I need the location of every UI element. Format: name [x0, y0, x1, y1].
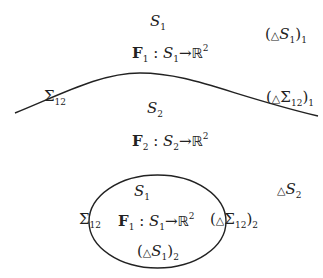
- subscript: 1: [129, 222, 135, 232]
- symbol-s: S: [151, 242, 161, 260]
- subscript: 1: [301, 35, 307, 45]
- subscript: 2: [157, 109, 163, 119]
- symbol-f: F: [132, 44, 143, 62]
- label-sigma12-ellipse: Σ12: [79, 212, 101, 230]
- symbol-s: S: [134, 182, 144, 200]
- symbol-s: S: [163, 44, 173, 62]
- label-f1-map-top: F1 : S1→ℝ2: [132, 44, 208, 64]
- symbol-sigma: Σ: [280, 88, 291, 106]
- label-s1-top: S1: [150, 14, 166, 32]
- label-s1-ellipse: S1: [134, 184, 150, 202]
- symbol-f: F: [132, 132, 143, 150]
- symbol-s: S: [150, 12, 160, 30]
- subscript: 12: [55, 97, 66, 107]
- subscript: 2: [143, 142, 149, 152]
- label-f1-map-ellipse: F1 : S1→ℝ2: [118, 212, 194, 232]
- subscript: 12: [235, 220, 246, 230]
- symbol-s: S: [149, 212, 159, 230]
- arrow-right-icon: →: [179, 132, 192, 150]
- colon: :: [139, 212, 144, 230]
- arrow-right-icon: →: [179, 44, 192, 62]
- symbol-s: S: [163, 132, 173, 150]
- symbol-sigma: Σ: [79, 210, 90, 228]
- symbol-reals: ℝ: [178, 213, 189, 229]
- label-delta-s2: △S2: [277, 182, 301, 200]
- subscript: 2: [252, 220, 258, 230]
- symbol-sigma: Σ: [224, 210, 235, 228]
- symbol-reals: ℝ: [192, 133, 203, 149]
- superscript: 2: [203, 43, 209, 53]
- colon: :: [153, 132, 158, 150]
- superscript: 2: [203, 131, 209, 141]
- symbol-s: S: [279, 25, 289, 43]
- symbol-sigma: Σ: [44, 87, 55, 105]
- subscript: 1: [143, 54, 149, 64]
- symbol-f: F: [118, 212, 129, 230]
- label-s2: S2: [147, 101, 163, 119]
- label-delta-s1-1: (△S1)1: [265, 27, 307, 45]
- subscript: 1: [144, 192, 150, 202]
- subscript: 12: [90, 220, 101, 230]
- label-sigma12-curve: Σ12: [44, 89, 66, 107]
- arrow-right-icon: →: [165, 212, 178, 230]
- subscript: 1: [308, 98, 314, 108]
- label-delta-s1-2: (△S1)2: [137, 244, 179, 262]
- label-delta-sigma12-2: (△Σ12)2: [210, 212, 258, 230]
- symbol-reals: ℝ: [192, 45, 203, 61]
- symbol-s: S: [147, 99, 157, 117]
- label-delta-sigma12-1: (△Σ12)1: [266, 90, 314, 108]
- colon: :: [153, 44, 158, 62]
- diagram-canvas: S1 F1 : S1→ℝ2 (△S1)1 Σ12 (△Σ12)1 S2 F2 :…: [0, 0, 323, 278]
- label-f2-map: F2 : S2→ℝ2: [132, 132, 208, 152]
- subscript: 1: [160, 22, 166, 32]
- subscript: 12: [291, 98, 302, 108]
- subscript: 2: [173, 252, 179, 262]
- subscript: 2: [296, 190, 302, 200]
- superscript: 2: [189, 211, 195, 221]
- symbol-s: S: [285, 180, 295, 198]
